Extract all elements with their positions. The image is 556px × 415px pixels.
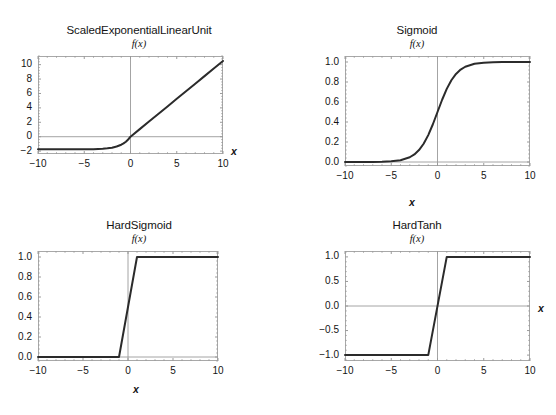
x-tick-label: −5: [371, 365, 411, 376]
x-tick-label: −10: [325, 365, 365, 376]
x-tick-label: 5: [464, 365, 504, 376]
y-tick-label: 1.0: [301, 250, 339, 261]
x-tick-label: 10: [510, 365, 550, 376]
x-tick-label: 0: [418, 365, 458, 376]
plot-title-hardtanh: HardTanh: [278, 219, 556, 231]
x-axis-label-hardtanh: x: [538, 302, 544, 314]
plot-panel-hardtanh: HardTanhf(x)−1.0−0.50.00.51.0−10−50510x: [0, 0, 556, 415]
y-tick-label: −1.0: [301, 349, 339, 360]
plot-canvas-hardtanh: [345, 251, 530, 361]
y-tick-label: −0.5: [301, 324, 339, 335]
plot-subtitle-hardtanh: f(x): [278, 233, 556, 244]
y-tick-label: 0.0: [301, 300, 339, 311]
y-tick-label: 0.5: [301, 275, 339, 286]
